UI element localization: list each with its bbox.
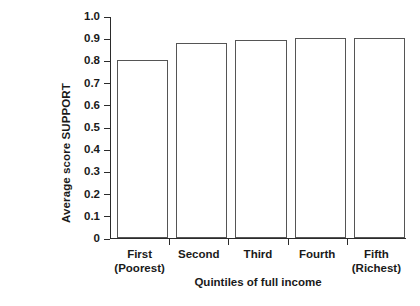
x-axis-category-line2: (Poorest) — [110, 262, 169, 276]
x-axis-category-line1: Third — [244, 248, 273, 260]
bar — [235, 40, 286, 238]
x-axis-category-line1: Second — [178, 248, 220, 260]
bar-chart-figure: Average score SUPPORT 00.10.20.30.40.50.… — [0, 0, 420, 306]
y-axis-tick — [104, 216, 110, 217]
bar — [295, 38, 346, 238]
bar — [176, 43, 227, 238]
x-axis-category-label: First(Poorest) — [110, 248, 169, 275]
y-axis-tick — [104, 172, 110, 173]
x-axis-tick — [228, 239, 229, 245]
y-axis-line — [110, 17, 111, 239]
y-axis-tick — [104, 105, 110, 106]
y-axis-tick — [104, 61, 110, 62]
x-axis-title: Quintiles of full income — [110, 276, 406, 288]
y-axis-tick — [104, 128, 110, 129]
x-axis-tick — [347, 239, 348, 245]
plot-area — [110, 17, 406, 239]
y-axis-tick — [104, 239, 110, 240]
y-axis-tick — [104, 83, 110, 84]
x-axis-category-line2: (Richest) — [347, 262, 406, 276]
x-axis-line — [110, 238, 406, 239]
x-axis-category-line1: Fourth — [299, 248, 335, 260]
x-axis-category-label: Second — [169, 248, 228, 262]
bar — [117, 60, 168, 238]
x-axis-category-label: Fourth — [288, 248, 347, 262]
y-axis-tick — [104, 150, 110, 151]
x-axis-tick — [169, 239, 170, 245]
x-axis-category-line1: Fifth — [364, 248, 389, 260]
y-axis-title: Average score SUPPORT — [44, 0, 88, 306]
x-axis-category-label: Third — [228, 248, 287, 262]
x-axis-category-label: Fifth(Richest) — [347, 248, 406, 275]
bar — [354, 38, 405, 238]
y-axis-tick — [104, 39, 110, 40]
y-axis-tick — [104, 194, 110, 195]
y-axis-tick — [104, 17, 110, 18]
x-axis-category-line1: First — [127, 248, 152, 260]
x-axis-tick — [288, 239, 289, 245]
